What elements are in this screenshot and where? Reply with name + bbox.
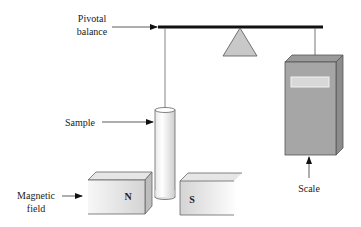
magnet-north-front-face: [88, 180, 145, 214]
scale-box: [285, 55, 343, 155]
magnet-north-label: N: [124, 191, 132, 202]
magnet-north-top-face: [88, 172, 152, 180]
magnet-south-top-face: [180, 173, 242, 181]
magnet-north-side-face: [145, 172, 152, 214]
sample-label: Sample: [65, 117, 153, 128]
magnet-south-label: S: [189, 194, 195, 205]
sample-tube: [155, 108, 175, 200]
scale-front-face: [285, 62, 336, 155]
pivotal-balance-label: Pivotal balance: [77, 13, 157, 37]
magnetic-field-label-line1: Magnetic: [17, 190, 55, 201]
magnet-south: S: [180, 173, 242, 215]
magnetic-field-label-line2: field: [27, 203, 45, 214]
sample-label-text: Sample: [65, 117, 96, 128]
pivot-triangle-icon: [223, 28, 257, 56]
magnetic-field-label: Magnetic field: [17, 190, 82, 214]
pivotal-balance-label-line1: Pivotal: [78, 13, 107, 24]
pivotal-balance-label-line2: balance: [77, 26, 108, 37]
magnet-north: N: [88, 172, 152, 214]
scale-label: Scale: [298, 157, 320, 194]
sample-tube-body: [155, 110, 175, 197]
sample-tube-top: [155, 108, 175, 113]
scale-label-text: Scale: [298, 183, 320, 194]
scale-side-face: [336, 55, 343, 155]
magnetic-susceptibility-balance-diagram: Pivotal balance Scale Sample: [0, 0, 361, 227]
scale-top-face: [285, 55, 343, 62]
scale-display: [291, 77, 329, 87]
